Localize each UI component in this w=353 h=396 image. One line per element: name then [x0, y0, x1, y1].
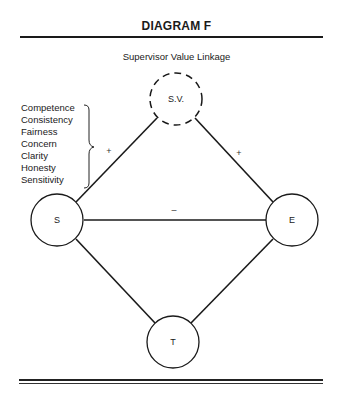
edge-s-sv [76, 118, 157, 202]
node-e-label: E [289, 215, 295, 225]
node-t: T [147, 316, 199, 368]
bottom-rule-divider-secondary [19, 383, 323, 384]
node-sv-label: S.V. [168, 94, 184, 104]
edge-e-t [191, 239, 273, 323]
edge-sign-s-e: – [171, 205, 176, 215]
linkage-diagram: + + – S.V. S E T [0, 0, 353, 396]
node-e: E [266, 194, 318, 246]
edge-sign-s-sv: + [106, 146, 111, 156]
curly-brace-icon [84, 105, 94, 188]
node-s-label: S [54, 215, 60, 225]
edge-sv-e [195, 118, 273, 202]
edge-sign-sv-e: + [236, 148, 241, 158]
node-sv: S.V. [150, 73, 202, 125]
node-s: S [31, 194, 83, 246]
node-t-label: T [170, 337, 176, 347]
bottom-rule-divider [19, 379, 323, 381]
edge-s-t [76, 239, 155, 323]
